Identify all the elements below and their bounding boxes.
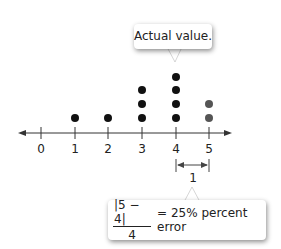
percent-error-text: = 25% percent error — [157, 206, 266, 234]
data-dots — [71, 73, 180, 122]
fraction: |5 − 4| 4 — [113, 198, 151, 242]
left-arrow-icon — [18, 130, 26, 136]
bracket-left-arrow-icon — [177, 162, 184, 168]
bracket-right-arrow-icon — [201, 162, 208, 168]
highlight-dots — [205, 100, 213, 122]
tick-label-3: 3 — [138, 142, 146, 156]
tick-label-0: 0 — [37, 142, 45, 156]
fraction-numerator: |5 − 4| — [113, 198, 151, 227]
tick-label-1: 1 — [71, 142, 79, 156]
fraction-denominator: 4 — [128, 227, 136, 242]
actual-value-text: Actual value. — [134, 29, 212, 43]
percent-error-callout: |5 − 4| 4 = 25% percent error — [108, 200, 266, 240]
top-callout-pointer — [167, 47, 182, 62]
tick-label-4: 4 — [172, 142, 180, 156]
actual-value-callout: Actual value. — [134, 24, 212, 49]
tick-label-5: 5 — [205, 142, 213, 156]
right-arrow-icon — [224, 130, 232, 136]
distance-label: 1 — [189, 171, 197, 185]
tick-label-2: 2 — [104, 142, 112, 156]
